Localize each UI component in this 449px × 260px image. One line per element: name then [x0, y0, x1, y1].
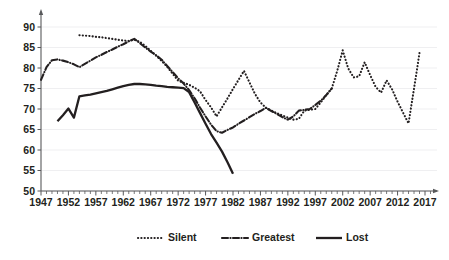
- x-tick-label: 1972: [166, 196, 190, 208]
- x-tick-label: 1967: [139, 196, 163, 208]
- y-axis: 908580757065605550: [23, 9, 43, 197]
- grid-lines: [41, 27, 437, 191]
- x-tick-label: 2017: [413, 196, 437, 208]
- series-line-silent: [79, 35, 419, 123]
- y-tick-label: 75: [23, 82, 35, 94]
- series-line-lost: [57, 84, 233, 174]
- chart-container: 908580757065605550 194719521957196219671…: [0, 0, 449, 260]
- y-tick-label: 50: [23, 185, 35, 197]
- x-tick-label: 1977: [194, 196, 218, 208]
- y-tick-label: 90: [23, 21, 35, 33]
- y-tick-label: 60: [23, 144, 35, 156]
- series-group: [41, 35, 420, 174]
- x-tick-label: 2012: [386, 196, 410, 208]
- y-tick-label: 65: [23, 123, 35, 135]
- x-tick-label: 1987: [249, 196, 273, 208]
- x-tick-label: 1992: [276, 196, 300, 208]
- legend-label-silent[interactable]: Silent: [168, 231, 197, 243]
- x-tick-label: 1957: [84, 196, 108, 208]
- x-axis-arrow: [433, 189, 439, 193]
- y-axis-arrow: [39, 9, 43, 15]
- x-axis: 1947195219571962196719721977198219871992…: [29, 189, 439, 208]
- y-tick-label: 55: [23, 164, 35, 176]
- y-tick-label: 85: [23, 41, 35, 53]
- x-tick-label: 1947: [29, 196, 53, 208]
- chart-legend: SilentGreatestLost: [138, 231, 369, 243]
- line-chart: 908580757065605550 194719521957196219671…: [0, 0, 449, 260]
- x-tick-label: 1952: [57, 196, 81, 208]
- x-tick-label: 1997: [304, 196, 328, 208]
- y-tick-label: 80: [23, 62, 35, 74]
- legend-label-greatest[interactable]: Greatest: [252, 231, 295, 243]
- x-tick-label: 1962: [112, 196, 136, 208]
- series-line-greatest: [41, 39, 332, 133]
- y-tick-label: 70: [23, 103, 35, 115]
- x-tick-label: 1982: [221, 196, 245, 208]
- legend-label-lost[interactable]: Lost: [346, 231, 369, 243]
- x-tick-label: 2002: [331, 196, 355, 208]
- x-tick-label: 2007: [358, 196, 382, 208]
